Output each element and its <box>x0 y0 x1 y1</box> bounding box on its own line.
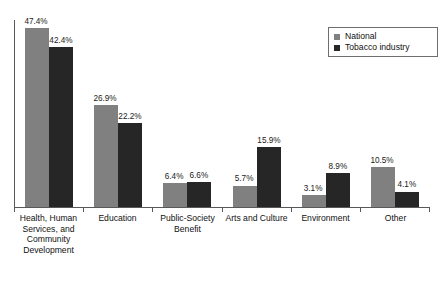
x-axis-label: Health, Human Services, and Community De… <box>12 213 85 255</box>
bar-value-label: 6.4% <box>165 173 184 181</box>
legend-swatch-icon <box>334 34 340 40</box>
legend-label: National <box>345 32 377 41</box>
bar-value-label: 47.4% <box>24 18 47 26</box>
chart-legend: National Tobacco industry <box>328 27 438 57</box>
bar-group-bars: 5.7% 15.9% <box>222 20 291 207</box>
legend-item-national[interactable]: National <box>334 31 433 42</box>
bar-group-bars: 26.9% 22.2% <box>83 20 152 207</box>
bar-group: 6.4% 6.6% <box>152 20 221 207</box>
x-axis-label: Public-Society Benefit <box>151 213 224 234</box>
bar-national[interactable]: 5.7% <box>233 186 257 208</box>
bar-tobacco-industry[interactable]: 6.6% <box>187 182 211 207</box>
bar-value-label: 42.4% <box>49 37 72 45</box>
x-axis-tick <box>291 208 292 212</box>
bar-group-bars: 47.4% 42.4% <box>14 20 83 207</box>
bar-tobacco-industry[interactable]: 42.4% <box>49 47 73 207</box>
bar-tobacco-industry[interactable]: 8.9% <box>326 173 350 207</box>
bar-value-label: 5.7% <box>235 175 254 183</box>
bar-national[interactable]: 3.1% <box>302 195 326 207</box>
bar-group: 47.4% 42.4% <box>14 20 83 207</box>
bar-group-bars: 6.4% 6.6% <box>152 20 221 207</box>
bar-value-label: 10.5% <box>370 157 393 165</box>
bar-value-label: 6.6% <box>190 172 209 180</box>
legend-swatch-icon <box>334 45 340 51</box>
bar-value-label: 8.9% <box>329 163 348 171</box>
bar-national[interactable]: 47.4% <box>25 28 49 207</box>
bar-value-label: 26.9% <box>93 95 116 103</box>
bar-value-label: 15.9% <box>257 137 280 145</box>
legend-label: Tobacco industry <box>345 43 410 52</box>
bar-chart: 47.4% 42.4% 26.9% 22.2% 6.4% <box>0 0 442 283</box>
x-axis-label: Education <box>81 213 154 224</box>
bar-tobacco-industry[interactable]: 15.9% <box>257 147 281 207</box>
bar-group: 26.9% 22.2% <box>83 20 152 207</box>
bar-value-label: 22.2% <box>118 113 141 121</box>
bar-value-label: 4.1% <box>398 181 417 189</box>
x-axis-category-labels: Health, Human Services, and Community De… <box>14 213 430 279</box>
x-axis-tick <box>14 208 15 212</box>
bar-tobacco-industry[interactable]: 22.2% <box>118 123 142 207</box>
bar-tobacco-industry[interactable]: 4.1% <box>395 192 419 208</box>
x-axis-label: Other <box>359 213 432 224</box>
bar-group: 5.7% 15.9% <box>222 20 291 207</box>
bar-value-label: 3.1% <box>304 185 323 193</box>
x-axis-tick <box>360 208 361 212</box>
x-axis-tick <box>429 208 430 212</box>
bar-national[interactable]: 6.4% <box>163 183 187 207</box>
legend-item-tobacco-industry[interactable]: Tobacco industry <box>334 42 433 53</box>
bar-national[interactable]: 26.9% <box>94 105 118 207</box>
x-axis-label: Environment <box>289 213 362 224</box>
x-axis-tick <box>83 208 84 212</box>
bar-national[interactable]: 10.5% <box>371 167 395 207</box>
x-axis-tick <box>222 208 223 212</box>
x-axis-tick <box>152 208 153 212</box>
x-axis-label: Arts and Culture <box>220 213 293 224</box>
